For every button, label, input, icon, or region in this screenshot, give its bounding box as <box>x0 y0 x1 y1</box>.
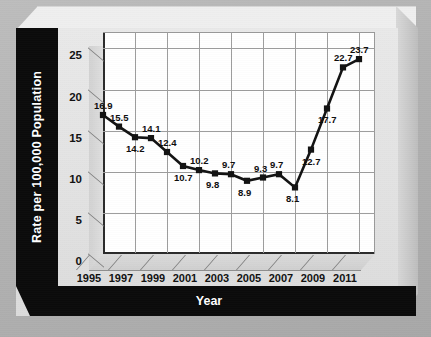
data-marker <box>324 105 330 111</box>
data-marker <box>212 170 218 176</box>
data-point-label: 10.7 <box>174 172 193 183</box>
data-point-label: 12.4 <box>158 137 177 148</box>
data-marker <box>100 112 106 118</box>
data-marker <box>196 167 202 173</box>
data-marker <box>356 56 362 62</box>
data-marker <box>260 174 266 180</box>
data-marker <box>164 149 170 155</box>
data-point-label: 14.1 <box>142 123 161 134</box>
data-marker <box>308 147 314 153</box>
data-marker <box>148 135 154 141</box>
data-point-label: 8.1 <box>286 193 299 204</box>
line-chart: 0510152025 19951997199920012003200520072… <box>58 30 403 286</box>
data-point-label: 9.8 <box>206 179 219 190</box>
data-point-label: 8.9 <box>238 187 251 198</box>
data-point-label: 9.7 <box>222 159 235 170</box>
data-marker <box>132 134 138 140</box>
data-point-label: 12.7 <box>302 156 321 167</box>
data-point-label: 10.2 <box>190 155 209 166</box>
data-point-label: 14.2 <box>126 143 145 154</box>
data-point-label: 16.9 <box>94 100 113 111</box>
data-marker <box>180 163 186 169</box>
data-point-label: 23.7 <box>350 44 369 55</box>
y-axis-title: Rate per 100,000 Population <box>16 28 58 286</box>
data-point-label: 17.7 <box>318 114 337 125</box>
data-marker <box>292 184 298 190</box>
data-point-label: 15.5 <box>110 112 129 123</box>
data-series <box>58 30 403 286</box>
data-point-label: 9.7 <box>270 159 283 170</box>
chart-plaque: Rate per 100,000 Population Year 0510152… <box>0 0 431 337</box>
data-marker <box>116 124 122 130</box>
data-marker <box>228 171 234 177</box>
data-point-label: 9.3 <box>254 163 267 174</box>
y-axis-title-text: Rate per 100,000 Population <box>30 71 44 243</box>
data-marker <box>244 178 250 184</box>
data-marker <box>340 64 346 70</box>
data-marker <box>276 171 282 177</box>
x-axis-title: Year <box>16 286 402 316</box>
